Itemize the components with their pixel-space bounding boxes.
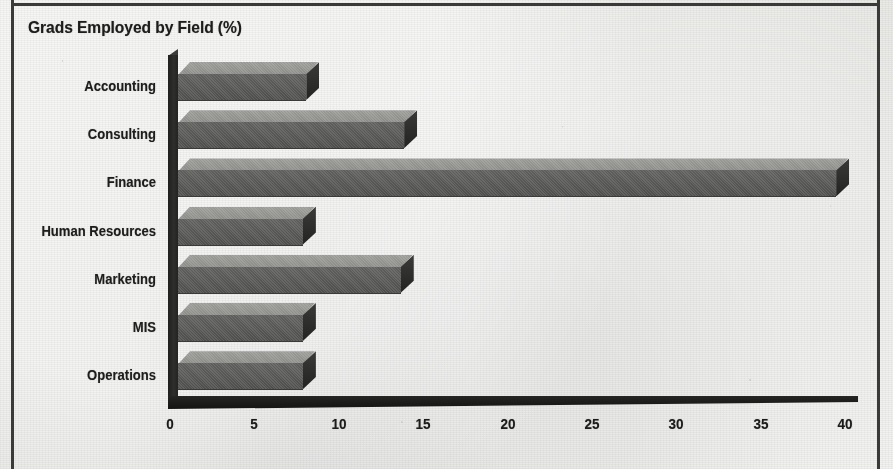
x-axis-line <box>168 396 858 409</box>
y-axis-wall <box>168 55 178 405</box>
x-tick-20: 20 <box>490 415 526 432</box>
x-tick-25: 25 <box>574 415 610 432</box>
category-label-consulting: Consulting <box>21 126 156 142</box>
x-tick-30: 30 <box>658 415 694 432</box>
category-label-human-resources: Human Resources <box>21 223 156 239</box>
bar-mis <box>178 303 303 341</box>
plot-area: AccountingConsultingFinanceHuman Resourc… <box>0 0 893 469</box>
bar-human-resources <box>178 207 303 245</box>
x-tick-15: 15 <box>405 415 441 432</box>
category-label-operations: Operations <box>21 367 156 383</box>
x-tick-40: 40 <box>827 415 863 432</box>
category-label-finance: Finance <box>21 174 156 190</box>
category-label-marketing: Marketing <box>21 271 156 287</box>
x-tick-0: 0 <box>152 415 188 432</box>
x-tick-35: 35 <box>743 415 779 432</box>
x-tick-10: 10 <box>321 415 357 432</box>
bar-accounting <box>178 62 306 100</box>
bar-finance <box>178 158 836 196</box>
chart-page: Grads Employed by Field (%) AccountingCo… <box>0 0 893 469</box>
bar-consulting <box>178 110 404 148</box>
bar-front-face <box>178 315 303 342</box>
bar-front-face <box>178 170 836 197</box>
category-label-accounting: Accounting <box>21 78 156 94</box>
bar-marketing <box>178 255 401 293</box>
bar-front-face <box>178 74 306 101</box>
category-label-mis: MIS <box>21 319 156 335</box>
bar-front-face <box>178 122 404 149</box>
bar-operations <box>178 351 303 389</box>
bar-front-face <box>178 219 303 246</box>
x-tick-5: 5 <box>236 415 272 432</box>
bar-front-face <box>178 267 401 294</box>
bar-front-face <box>178 363 303 390</box>
